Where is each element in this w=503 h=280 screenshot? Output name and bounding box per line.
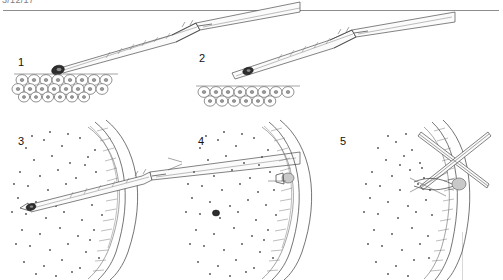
panel3-tissue-wall: [90, 120, 138, 280]
panel-1-artwork: [12, 2, 300, 102]
panel-number-5: 5: [340, 136, 346, 147]
panel2-micropipette: [232, 12, 455, 79]
panel2-cell-sheet: [196, 86, 300, 106]
panel3-micropipette: [28, 152, 300, 212]
panel-number-2: 2: [199, 53, 205, 64]
figure-artwork: [0, 0, 503, 280]
panel-number-3: 3: [18, 136, 24, 147]
panel-number-1: 1: [18, 57, 24, 68]
panel-number-4: 4: [198, 136, 204, 147]
panel4-tissue-wall: [264, 120, 312, 280]
panel4-transplanted-cell: [212, 210, 219, 216]
panel-4-artwork: [168, 120, 312, 280]
panel-5-artwork: [363, 120, 491, 280]
panel4-stipple-field: [185, 131, 277, 277]
panel5-crossed-needles: [410, 132, 491, 196]
figure-root: 3/12/17: [0, 0, 503, 280]
panel-3-artwork: [11, 120, 300, 280]
panel4-wall-plug: [268, 173, 294, 184]
panel-2-artwork: [196, 12, 455, 106]
panel1-cell-sheet: [12, 74, 118, 102]
panel5-wall-plug: [452, 178, 466, 190]
panel5-stipple-field: [363, 133, 433, 277]
